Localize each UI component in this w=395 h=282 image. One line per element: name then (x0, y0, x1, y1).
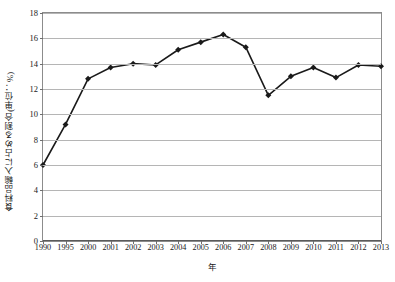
x-tick-label-2005: 2005 (193, 244, 209, 252)
gridline-y-6 (43, 165, 381, 166)
y-tick-label-14: 14 (30, 59, 39, 68)
y-axis-tick-labels: 024681012141618 (18, 0, 40, 282)
y-tickmark-8 (40, 140, 43, 141)
x-tick-label-2013: 2013 (373, 244, 389, 252)
gridline-y-12 (43, 89, 381, 90)
y-tick-label-12: 12 (30, 85, 39, 94)
x-tick-label-1995: 1995 (57, 244, 73, 252)
y-axis-title-wrapper: 食料品輸入に占める割合(単位：%) (0, 0, 20, 282)
gridline-y-18 (43, 13, 381, 14)
line-series-food-import-share (43, 13, 381, 241)
x-tick-label-2004: 2004 (170, 244, 186, 252)
y-tickmark-16 (40, 38, 43, 39)
y-tick-label-8: 8 (34, 135, 38, 144)
gridline-y-4 (43, 190, 381, 191)
data-point-1995 (63, 121, 69, 127)
x-tick-label-2003: 2003 (147, 244, 163, 252)
x-tick-label-2010: 2010 (305, 244, 321, 252)
y-tick-label-16: 16 (30, 34, 39, 43)
y-tick-label-6: 6 (34, 161, 38, 170)
gridline-y-8 (43, 140, 381, 141)
x-axis-title: 年 (42, 260, 382, 272)
y-tickmark-6 (40, 165, 43, 166)
data-point-2007 (243, 44, 249, 50)
y-tickmark-10 (40, 114, 43, 115)
y-tickmark-18 (40, 13, 43, 14)
gridline-y-2 (43, 216, 381, 217)
x-tick-label-2002: 2002 (125, 244, 141, 252)
gridline-y-14 (43, 64, 381, 65)
series-line (43, 35, 381, 165)
chart-container: 食料品輸入に占める割合(単位：%) 024681012141618 199019… (0, 0, 395, 282)
y-tickmark-12 (40, 89, 43, 90)
x-tick-label-2009: 2009 (283, 244, 299, 252)
y-tick-label-2: 2 (34, 211, 38, 220)
plot-area (42, 12, 382, 242)
x-tick-label-2008: 2008 (260, 244, 276, 252)
y-tick-label-18: 18 (30, 9, 39, 18)
y-tick-label-10: 10 (30, 110, 39, 119)
data-point-2001 (108, 64, 114, 70)
x-tick-label-1990: 1990 (35, 244, 51, 252)
x-tick-label-2007: 2007 (238, 244, 254, 252)
x-tick-label-2000: 2000 (80, 244, 96, 252)
y-tickmark-4 (40, 190, 43, 191)
gridline-y-10 (43, 114, 381, 115)
x-tick-label-2011: 2011 (328, 244, 344, 252)
x-tick-label-2006: 2006 (215, 244, 231, 252)
y-tickmark-14 (40, 64, 43, 65)
data-point-2000 (85, 76, 91, 82)
x-tick-label-2001: 2001 (102, 244, 118, 252)
y-tick-label-4: 4 (34, 186, 38, 195)
data-point-2010 (310, 64, 316, 70)
data-point-2006 (220, 32, 226, 38)
y-axis-title: 食料品輸入に占める割合(単位：%) (6, 72, 15, 211)
data-point-2005 (198, 39, 204, 45)
x-tick-label-2012: 2012 (350, 244, 366, 252)
gridline-y-16 (43, 38, 381, 39)
x-axis-tick-labels: 1990199520002001200220032004200520062007… (42, 244, 382, 258)
y-tickmark-2 (40, 216, 43, 217)
